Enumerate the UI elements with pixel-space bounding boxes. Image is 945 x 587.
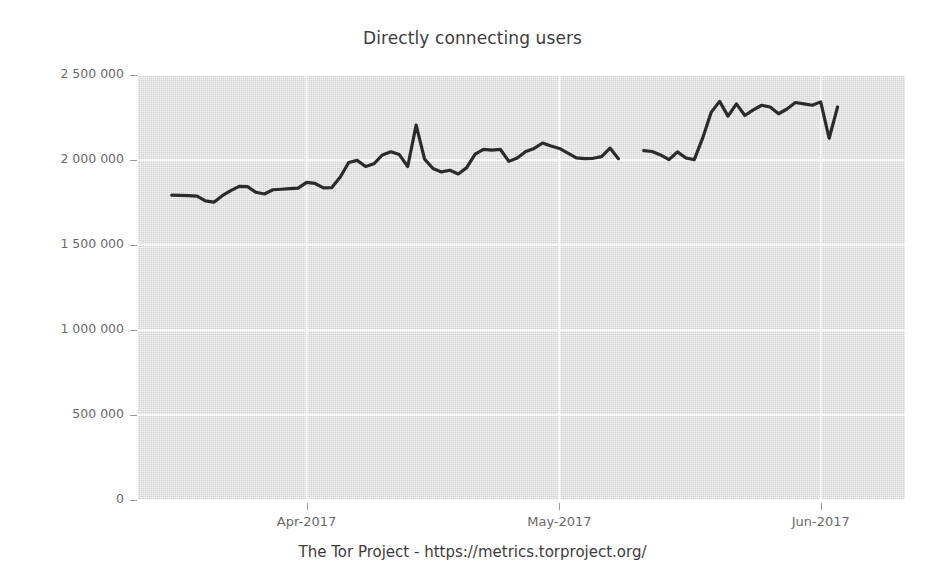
chart-container: Directly connecting users 0500 0001 000 … bbox=[0, 0, 945, 587]
x-tick-mark bbox=[559, 503, 560, 510]
x-tick-label: Apr-2017 bbox=[277, 514, 336, 529]
y-tick-mark bbox=[130, 160, 137, 161]
y-tick-label: 500 000 bbox=[32, 406, 124, 421]
y-tick-mark bbox=[130, 500, 137, 501]
y-tick-mark bbox=[130, 330, 137, 331]
y-tick-mark bbox=[130, 245, 137, 246]
x-tick-mark bbox=[307, 503, 308, 510]
y-tick-mark bbox=[130, 415, 137, 416]
axis-layer: 0500 0001 000 0001 500 0002 000 0002 500… bbox=[0, 0, 945, 587]
x-tick-mark bbox=[821, 503, 822, 510]
x-tick-label: Jun-2017 bbox=[792, 514, 850, 529]
x-tick-label: May-2017 bbox=[527, 514, 591, 529]
y-tick-label: 0 bbox=[32, 491, 124, 506]
y-tick-label: 2 000 000 bbox=[32, 151, 124, 166]
y-tick-label: 1 500 000 bbox=[32, 236, 124, 251]
y-tick-label: 1 000 000 bbox=[32, 321, 124, 336]
y-tick-mark bbox=[130, 75, 137, 76]
y-tick-label: 2 500 000 bbox=[32, 66, 124, 81]
chart-caption: The Tor Project - https://metrics.torpro… bbox=[0, 543, 945, 561]
